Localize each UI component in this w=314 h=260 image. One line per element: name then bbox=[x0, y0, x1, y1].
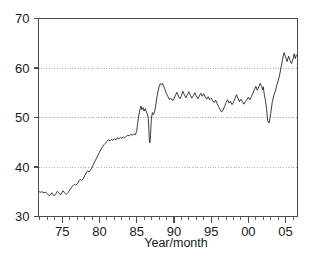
x-axis-title: Year/month bbox=[144, 236, 208, 250]
line-chart: 3040506070 75808590950005 Year/month bbox=[0, 0, 314, 260]
y-tick-label-40: 40 bbox=[15, 160, 29, 175]
data-series-group bbox=[39, 53, 296, 196]
y-axis-ticks bbox=[34, 19, 39, 217]
gridlines bbox=[39, 68, 298, 167]
chart-figure: 3040506070 75808590950005 Year/month bbox=[0, 0, 314, 260]
y-tick-label-60: 60 bbox=[15, 61, 29, 76]
x-tick-label-75: 75 bbox=[55, 224, 69, 239]
plot-frame bbox=[39, 19, 298, 217]
x-tick-label-05: 05 bbox=[278, 224, 292, 239]
x-tick-label-00: 00 bbox=[241, 224, 255, 239]
y-tick-label-70: 70 bbox=[15, 11, 29, 26]
x-axis-ticks bbox=[40, 217, 293, 223]
x-tick-label-80: 80 bbox=[92, 224, 106, 239]
y-tick-label-30: 30 bbox=[15, 209, 29, 224]
x-tick-label-85: 85 bbox=[130, 224, 144, 239]
data-line-series-1 bbox=[39, 53, 296, 196]
y-tick-label-50: 50 bbox=[15, 110, 29, 125]
y-axis-tick-labels: 3040506070 bbox=[15, 11, 29, 224]
